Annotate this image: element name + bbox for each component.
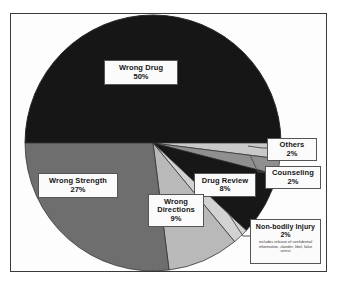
slice-label-wrong-directions-percent: 9% xyxy=(171,215,182,223)
slice-label-counseling-percent: 2% xyxy=(288,178,299,186)
slice-label-wrong-drug-percent: 50% xyxy=(133,73,148,81)
slice-label-non-bodily-injury: Non-bodily Injury 2% includes release of… xyxy=(250,219,321,264)
slice-label-wrong-drug: Wrong Drug 50% xyxy=(104,60,178,85)
slice-label-others-percent: 2% xyxy=(287,150,298,158)
slice-label-wrong-strength: Wrong Strength 27% xyxy=(38,173,118,198)
pie-slices xyxy=(25,15,281,271)
slice-label-non-bodily-injury-text: Non-bodily Injury xyxy=(254,223,317,231)
slice-label-non-bodily-injury-note: includes release of confidential informa… xyxy=(254,240,317,255)
pie-chart-figure: Wrong Drug 50% Others 2% Counseling 2% D… xyxy=(0,0,341,281)
slice-label-drug-review-percent: 8% xyxy=(220,185,231,193)
slice-label-others: Others 2% xyxy=(267,138,317,161)
slice-label-counseling: Counseling 2% xyxy=(265,166,321,189)
slice-label-wrong-strength-percent: 27% xyxy=(70,186,85,194)
slice-label-wrong-directions-text: Wrong Directions xyxy=(152,198,200,215)
slice-label-wrong-directions: Wrong Directions 9% xyxy=(148,194,204,227)
slice-label-non-bodily-injury-percent: 2% xyxy=(254,231,317,239)
